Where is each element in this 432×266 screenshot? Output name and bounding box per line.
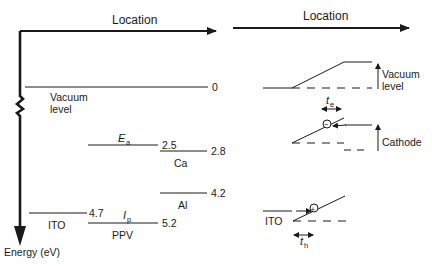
al-value: 4.2: [211, 187, 226, 199]
vacuum-label-line2: level: [50, 103, 72, 115]
vacuum-slope-line: [292, 62, 344, 88]
ip-value: 5.2: [162, 217, 177, 229]
right-ito-label: ITO: [265, 215, 282, 227]
th-subscript: h: [304, 241, 308, 250]
vacuum-label-line1: Vacuum: [50, 91, 88, 103]
ito-slope-line: [293, 196, 345, 221]
ito-label: ITO: [48, 219, 65, 231]
left-panel: Location Energy (eV) Vacuum 0 Vacuum lev…: [4, 13, 226, 258]
ea-symbol: E: [118, 132, 126, 144]
electron-injection-arrow: [333, 125, 346, 126]
energy-axis: [17, 31, 23, 228]
right-panel: Location Vacuum level t e − Cathode + IT…: [233, 9, 422, 250]
ito-value: 4.7: [89, 207, 104, 219]
al-label: Al: [178, 199, 187, 211]
right-vacuum-label-line1: Vacuum: [382, 68, 420, 80]
right-x-axis-label: Location: [303, 9, 348, 23]
hole-sign: +: [311, 205, 316, 214]
ip-symbol: I: [123, 209, 126, 221]
right-vacuum-label-line2: level: [382, 80, 404, 92]
left-x-axis-label: Location: [112, 13, 157, 27]
ea-value: 2.5: [162, 139, 177, 151]
electron-sign: −: [324, 120, 329, 129]
cathode-label: Cathode: [382, 136, 422, 148]
ca-label: Ca: [174, 157, 188, 169]
vacuum-zero-value: 0: [212, 81, 218, 93]
ea-subscript: a: [126, 138, 131, 147]
cathode-slope-line: [292, 118, 344, 143]
te-subscript: e: [330, 100, 334, 109]
ca-value: 2.8: [211, 145, 226, 157]
energy-level-diagram: Location Energy (eV) Vacuum 0 Vacuum lev…: [0, 0, 432, 266]
energy-axis-arrowhead: [14, 226, 26, 246]
energy-axis-label: Energy (eV): [4, 246, 60, 258]
ppv-label: PPV: [112, 229, 133, 241]
